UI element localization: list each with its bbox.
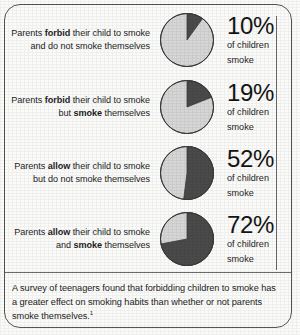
percent-readout: 19% of children smoke [218,80,292,134]
percent-caption-line2: smoke [227,121,292,134]
percent-value: 19% [227,80,292,105]
row-label: Parents allow their child to smoke and s… [4,226,156,251]
vertical-divider [276,16,277,270]
caption-body: A survey of teenagers found that forbidd… [12,283,276,321]
row-label: Parents forbid their child to smoke and … [4,27,156,52]
pie-chart [159,211,215,267]
chart-rows-container: Parents forbid their child to smoke and … [4,4,292,270]
caption-text: A survey of teenagers found that forbidd… [12,281,280,323]
pie-chart-container [156,211,218,267]
percent-readout: 52% of children smoke [218,146,292,200]
pie-chart-container [156,79,218,135]
row-label: Parents allow their child to smoke but d… [4,160,156,185]
percent-caption-line2: smoke [227,187,292,200]
percent-readout: 10% of children smoke [218,13,292,67]
percent-caption-line1: of children [227,39,292,52]
percent-value: 10% [227,13,292,38]
chart-row: Parents allow their child to smoke but d… [4,140,292,206]
infographic-page: Parents forbid their child to smoke and … [0,0,300,335]
horizontal-divider [5,272,291,273]
percent-value: 72% [227,212,292,237]
percent-caption-line1: of children [227,172,292,185]
chart-row: Parents allow their child to smoke and s… [4,206,292,272]
percent-caption-line2: smoke [227,253,292,266]
percent-caption-line1: of children [227,106,292,119]
footnote-marker: 1 [90,310,93,316]
percent-caption-line1: of children [227,238,292,251]
pie-chart [159,145,215,201]
pie-chart-container [156,145,218,201]
chart-row: Parents forbid their child to smoke but … [4,74,292,140]
pie-chart [159,79,215,135]
pie-chart [159,12,215,68]
row-label: Parents forbid their child to smoke but … [4,94,156,119]
pie-chart-container [156,12,218,68]
percent-readout: 72% of children smoke [218,212,292,266]
chart-row: Parents forbid their child to smoke and … [4,7,292,73]
percent-caption-line2: smoke [227,54,292,67]
percent-value: 52% [227,146,292,171]
